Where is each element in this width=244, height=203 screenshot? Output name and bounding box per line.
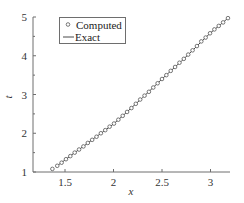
data-point-computed xyxy=(77,148,81,152)
data-point-computed xyxy=(55,164,59,168)
data-point-computed xyxy=(195,44,199,48)
y-tick-label: 3 xyxy=(22,89,28,101)
data-point-computed xyxy=(95,135,99,139)
data-point-computed xyxy=(221,21,225,25)
data-point-computed xyxy=(208,31,212,35)
data-point-computed xyxy=(112,122,116,126)
data-point-computed xyxy=(143,94,147,98)
data-point-computed xyxy=(191,49,195,53)
legend-label-computed: Computed xyxy=(76,19,122,31)
legend-label-exact: Exact xyxy=(75,31,100,43)
data-point-computed xyxy=(134,102,138,106)
data-point-computed xyxy=(82,145,86,149)
x-tick-label: 2 xyxy=(111,176,117,188)
data-point-computed xyxy=(151,86,155,90)
data-point-computed xyxy=(147,90,151,94)
data-point-computed xyxy=(204,36,208,40)
data-point-computed xyxy=(90,138,94,142)
data-point-computed xyxy=(86,141,90,145)
data-point-computed xyxy=(121,114,125,118)
y-ticks: 12345 xyxy=(22,11,37,178)
data-point-computed xyxy=(178,61,182,65)
data-point-computed xyxy=(226,16,230,20)
data-point-computed xyxy=(173,65,177,69)
data-point-computed xyxy=(138,98,142,102)
data-point-computed xyxy=(51,167,55,171)
data-point-computed xyxy=(160,77,164,81)
x-axis-label: x xyxy=(128,185,134,197)
data-point-computed xyxy=(125,110,129,114)
data-point-computed xyxy=(99,131,103,135)
x-tick-label: 3 xyxy=(208,176,214,188)
x-tick-label: 2.5 xyxy=(155,176,169,188)
y-tick-label: 5 xyxy=(22,11,28,23)
chart: 1.522.53 12345 x t Computed Exact xyxy=(0,0,244,203)
data-point-computed xyxy=(213,28,217,32)
y-tick-label: 2 xyxy=(22,127,28,139)
data-point-computed xyxy=(103,128,107,132)
data-point-computed xyxy=(64,157,68,161)
data-point-computed xyxy=(182,57,186,61)
legend: Computed Exact xyxy=(60,18,126,44)
data-point-computed xyxy=(186,53,190,57)
x-tick-label: 1.5 xyxy=(58,176,72,188)
data-point-computed xyxy=(108,125,112,129)
legend-marker-computed xyxy=(66,23,70,27)
data-point-computed xyxy=(69,154,73,158)
y-tick-label: 1 xyxy=(22,166,28,178)
data-point-computed xyxy=(117,118,121,122)
data-point-computed xyxy=(165,73,169,77)
data-point-computed xyxy=(156,81,160,85)
data-point-computed xyxy=(130,106,134,110)
data-point-computed xyxy=(199,40,203,44)
data-point-computed xyxy=(169,69,173,73)
y-axis-label: t xyxy=(2,95,14,99)
data-point-computed xyxy=(73,151,77,155)
data-point-computed xyxy=(217,24,221,28)
y-tick-label: 4 xyxy=(22,50,28,62)
data-point-computed xyxy=(60,161,64,165)
